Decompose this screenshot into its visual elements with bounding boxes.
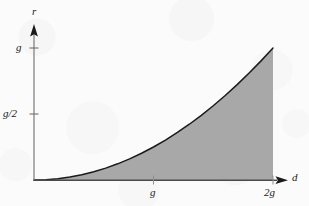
x-axis-title: d [292,172,298,183]
x-tick-label-g: g [150,187,156,198]
x-axis-arrowhead [276,176,289,184]
y-tick-label-g: g [16,42,22,53]
figure-plot-area: r d g g/2 g 2g [0,0,309,206]
x-tick-label-2g: 2g [264,187,275,198]
y-tick-label-g-half: g/2 [3,108,17,119]
y-axis-title: r [32,6,36,17]
chart-canvas [0,0,309,206]
shaded-area-under-curve [34,48,273,180]
